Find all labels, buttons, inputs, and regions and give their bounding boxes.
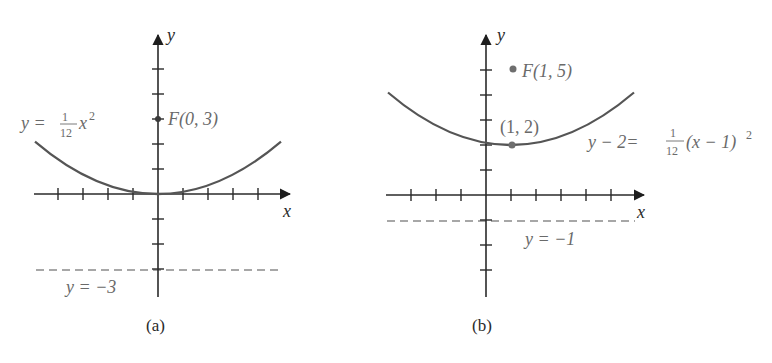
x-axis-label-b: x [636,202,645,222]
svg-text:y − 2=: y − 2= [586,132,638,152]
svg-text:12: 12 [60,126,72,140]
x-axis-label-a: x [282,201,291,221]
focus-label-a: F(0, 3) [167,109,218,130]
figure-canvas: y x F(0, 3) y = 1 12 x 2 y = −3 (a) [0,0,772,363]
caption-b: (b) [472,316,492,335]
focus-point-b [510,66,517,73]
focus-point-a [155,116,161,122]
svg-text:2: 2 [746,128,752,142]
caption-a: (a) [146,316,165,335]
focus-label-b: F(1, 5) [521,61,572,82]
graph-b: y x F(1, 5) (1, 2) y − 2= 1 12 (x − 1) 2… [386,25,752,335]
svg-text:1: 1 [62,110,68,124]
vertex-label-b: (1, 2) [500,117,539,138]
vertex-point-b [509,142,516,149]
equation-b: y − 2= 1 12 (x − 1) 2 [586,126,752,158]
y-axis-label-a: y [165,25,175,45]
directrix-label-b: y = −1 [523,229,575,249]
directrix-label-a: y = −3 [64,277,116,297]
y-axis-label-b: y [495,25,505,45]
svg-text:y =: y = [19,113,46,133]
svg-text:x: x [78,113,87,133]
svg-text:2: 2 [89,109,95,123]
graph-a: y x F(0, 3) y = 1 12 x 2 y = −3 (a) [19,25,291,335]
svg-text:12: 12 [666,144,678,158]
svg-text:(x − 1): (x − 1) [686,132,736,153]
equation-a: y = 1 12 x 2 [19,109,95,140]
svg-text:1: 1 [670,126,676,140]
